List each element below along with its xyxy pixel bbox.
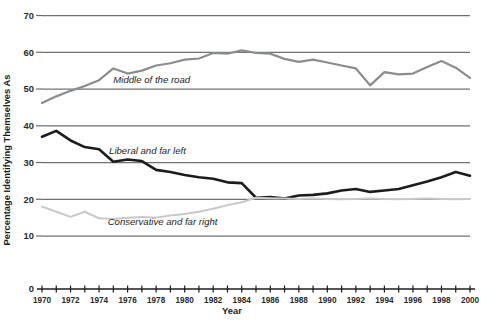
chart-figure: 010203040506070 197019721974197619781980…	[0, 0, 499, 322]
series-annotations-group: Middle of the roadLiberal and far leftCo…	[108, 74, 218, 226]
x-tick-label-1974: 1974	[90, 296, 109, 305]
y-tick-label-70: 70	[24, 10, 34, 21]
series-lines-group	[42, 50, 470, 219]
y-axis-title: Percentage Identifying Themselves As	[1, 74, 12, 245]
x-tick-label-1984: 1984	[233, 296, 252, 305]
y-tick-label-60: 60	[24, 47, 34, 58]
x-tick-label-1980: 1980	[176, 296, 195, 305]
y-axis-tick-labels: 010203040506070	[24, 10, 42, 295]
x-tick-label-1992: 1992	[347, 296, 366, 305]
x-tick-label-1982: 1982	[204, 296, 223, 305]
annotation-middle-of-the-road: Middle of the road	[113, 74, 190, 85]
x-tick-label-1978: 1978	[147, 296, 166, 305]
y-tick-label-50: 50	[24, 83, 34, 94]
x-tick-label-1996: 1996	[404, 296, 423, 305]
series-line-middle-of-the-road	[42, 50, 470, 103]
x-axis-tick-labels: 1970197219741976197819801982198419861988…	[33, 296, 480, 305]
y-tick-label-10: 10	[24, 230, 34, 241]
series-line-conservative-and-far-right	[42, 198, 470, 219]
x-tick-label-1986: 1986	[261, 296, 280, 305]
x-tick-label-1970: 1970	[33, 296, 52, 305]
x-axis-title: Year	[222, 305, 242, 316]
series-line-liberal-and-far-left	[42, 131, 470, 199]
x-axis	[37, 286, 475, 293]
y-tick-label-0: 0	[29, 283, 34, 294]
x-tick-label-1988: 1988	[290, 296, 309, 305]
x-tick-label-1976: 1976	[118, 296, 137, 305]
x-tick-label-1972: 1972	[61, 296, 80, 305]
annotation-conservative-and-far-right: Conservative and far right	[108, 216, 218, 227]
gridlines-group	[42, 16, 470, 237]
x-tick-label-1994: 1994	[375, 296, 394, 305]
y-tick-label-40: 40	[24, 120, 34, 131]
x-tick-label-1998: 1998	[432, 296, 451, 305]
x-tick-label-2000: 2000	[461, 296, 480, 305]
annotation-liberal-and-far-left: Liberal and far left	[109, 145, 186, 156]
y-tick-label-20: 20	[24, 194, 34, 205]
line-chart-plot: 010203040506070 197019721974197619781980…	[0, 0, 499, 322]
x-tick-label-1990: 1990	[318, 296, 337, 305]
y-tick-label-30: 30	[24, 157, 34, 168]
